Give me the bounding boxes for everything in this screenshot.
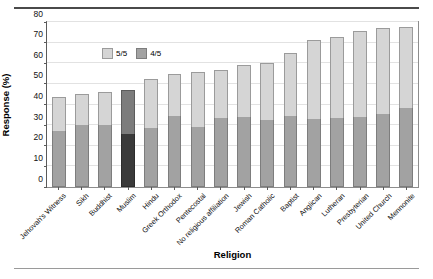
x-axis-tick-mark [313, 187, 314, 190]
stacked-bar [75, 94, 89, 187]
legend-label: 4/5 [150, 50, 161, 58]
bar-segment-4-of-5 [121, 134, 135, 187]
stacked-bar [98, 92, 112, 187]
bar-segment-4-of-5 [399, 108, 413, 187]
bar-segment-5-of-5 [284, 53, 298, 116]
bar-cell [233, 22, 256, 187]
bar-segment-5-of-5 [353, 31, 367, 117]
bar-segment-5-of-5 [237, 65, 251, 117]
bar-cell [348, 22, 371, 187]
legend-label: 5/5 [116, 50, 127, 58]
bar-segment-4-of-5 [330, 118, 344, 187]
bar-segment-5-of-5 [399, 27, 413, 107]
x-axis-tick-mark [360, 187, 361, 190]
bar-cell [209, 22, 232, 187]
bar-cell [47, 22, 70, 187]
bottom-rule [14, 268, 419, 269]
bar-cell [372, 22, 395, 187]
x-axis-tick-mark [197, 187, 198, 190]
y-axis-tick-label: 30 [34, 112, 43, 121]
x-axis-tick-mark [383, 187, 384, 190]
bar-segment-5-of-5 [52, 97, 66, 131]
legend-swatch [136, 48, 147, 59]
bar-segment-4-of-5 [98, 125, 112, 187]
y-axis-tick-label: 40 [34, 92, 43, 101]
y-axis-title-text: Response (%) [0, 73, 11, 136]
legend-item: 5/5 [102, 48, 127, 59]
stacked-bar [168, 74, 182, 187]
x-axis-tick-mark [128, 187, 129, 190]
legend: 5/54/5 [96, 46, 167, 61]
bar-cell [70, 22, 93, 187]
bar-segment-5-of-5 [191, 72, 205, 128]
figure: Response (%) 01020304050607080 5/54/5 Je… [0, 0, 433, 279]
stacked-bar [376, 28, 390, 187]
y-axis-tick-label: 10 [34, 154, 43, 163]
x-axis-tick-mark [58, 187, 59, 190]
x-axis-tick-mark [151, 187, 152, 190]
bar-segment-5-of-5 [144, 79, 158, 129]
bar-cell [325, 22, 348, 187]
x-axis-tick-mark [220, 187, 221, 190]
bar-segment-5-of-5 [307, 40, 321, 119]
stacked-bar [330, 37, 344, 187]
y-axis-tick-label: 50 [34, 71, 43, 80]
stacked-bar [214, 70, 228, 187]
y-axis-title: Response (%) [0, 21, 12, 188]
bar-cell [256, 22, 279, 187]
x-axis-title: Religion [46, 249, 419, 260]
stacked-bar [121, 90, 135, 187]
x-axis-tick-mark [81, 187, 82, 190]
stacked-bar [260, 63, 274, 187]
stacked-bar [353, 31, 367, 187]
bar-segment-5-of-5 [168, 74, 182, 116]
bar-segment-4-of-5 [376, 114, 390, 187]
stacked-bar [144, 79, 158, 187]
y-axis-tick-label: 0 [38, 174, 43, 183]
x-axis-tick-mark [174, 187, 175, 190]
bar-segment-5-of-5 [260, 63, 274, 120]
x-axis-tick-mark [267, 187, 268, 190]
stacked-bar [237, 65, 251, 187]
bar-segment-5-of-5 [376, 28, 390, 114]
stacked-bar [52, 97, 66, 187]
bar-segment-4-of-5 [260, 120, 274, 187]
bar-segment-5-of-5 [98, 92, 112, 125]
top-rule [14, 7, 419, 9]
bar-segment-5-of-5 [75, 94, 89, 125]
x-axis-tick-mark [244, 187, 245, 190]
x-axis-tick-labels: Jehovah's WitnessSikhBuddhistMuslimHindu… [46, 192, 419, 254]
bar-cell [279, 22, 302, 187]
bar-segment-4-of-5 [237, 117, 251, 187]
x-axis-tick-label: Sikh [75, 192, 90, 207]
stacked-bar [284, 53, 298, 187]
bar-segment-4-of-5 [52, 131, 66, 187]
legend-swatch [102, 48, 113, 59]
bar-segment-5-of-5 [214, 70, 228, 117]
x-axis-tick-mark [336, 187, 337, 190]
bar-segment-4-of-5 [191, 127, 205, 187]
x-axis-tick-mark [290, 187, 291, 190]
x-axis-tick-label: Anglican [298, 192, 323, 217]
bar-segment-5-of-5 [330, 37, 344, 117]
bar-segment-4-of-5 [168, 116, 182, 187]
bar-segment-5-of-5 [121, 90, 135, 134]
bar-segment-4-of-5 [284, 116, 298, 187]
x-axis-tick-label: Muslim [115, 192, 137, 214]
x-axis-tick-label: Jehovah's Witness [18, 192, 67, 241]
stacked-bar [399, 27, 413, 187]
x-axis-tick-label: Buddhist [88, 192, 114, 218]
plot-area: 01020304050607080 5/54/5 [46, 21, 419, 188]
bar-segment-4-of-5 [353, 117, 367, 187]
y-axis-tick-label: 70 [34, 30, 43, 39]
x-axis-tick-mark [406, 187, 407, 190]
x-axis-tick-mark [104, 187, 105, 190]
bar-segment-4-of-5 [75, 125, 89, 187]
legend-item: 4/5 [136, 48, 161, 59]
bar-cell [186, 22, 209, 187]
bar-segment-4-of-5 [214, 118, 228, 187]
y-axis-tick-label: 60 [34, 51, 43, 60]
x-axis-tick-label: Hindu [141, 192, 160, 211]
y-axis-tick-label: 80 [34, 9, 43, 18]
y-axis-tick-label: 20 [34, 133, 43, 142]
